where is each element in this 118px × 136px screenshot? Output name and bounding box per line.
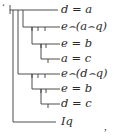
formula-row4: e⌢(d⌢q) — [61, 67, 108, 79]
formula-row5: e = b — [61, 82, 92, 94]
opening-quote-mark: ‘ — [2, 1, 5, 11]
formula-row1: e⌢(a⌢q) — [61, 20, 107, 32]
formula-row0: d = a — [61, 3, 92, 15]
trailing-comma: , — [104, 120, 107, 132]
formula-row2: e = b — [61, 37, 92, 49]
formula-row7: Iq — [61, 115, 73, 127]
formula-row6: d = c — [61, 97, 92, 109]
formula-row3: a = c — [61, 52, 91, 64]
